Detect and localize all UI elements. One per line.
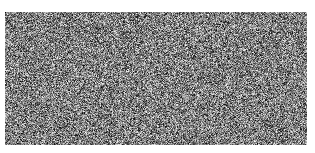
- noise-field: [5, 12, 307, 145]
